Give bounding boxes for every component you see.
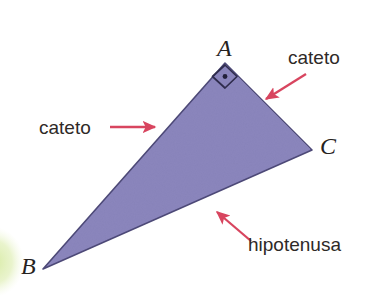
annotation-label-hipotenusa: hipotenusa [248, 235, 341, 254]
arrow-cateto-right [266, 74, 306, 99]
annotation-label-cateto-right: cateto [288, 48, 340, 67]
annotation-label-cateto-left: cateto [39, 118, 91, 137]
arrow-hipotenusa [217, 212, 251, 241]
vertex-label-c: C [320, 134, 336, 158]
vertex-label-b: B [21, 254, 36, 278]
vertex-label-a: A [217, 36, 232, 60]
geometry-figure: A B C cateto cateto hipotenusa [0, 0, 379, 297]
